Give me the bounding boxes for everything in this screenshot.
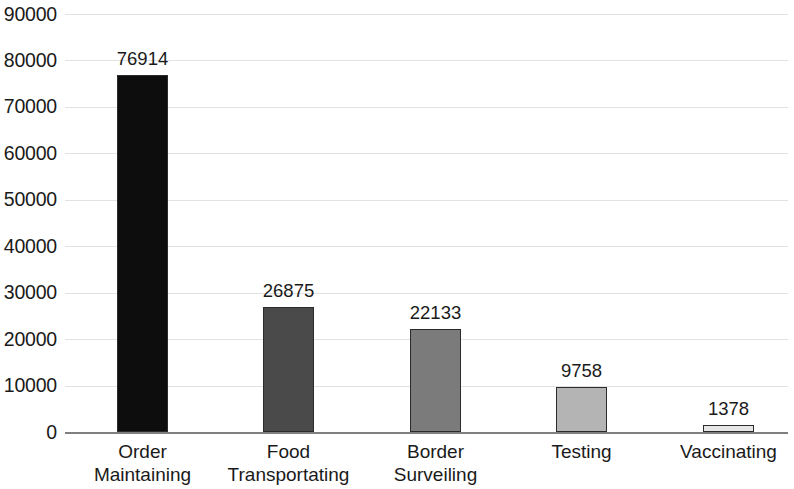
y-axis-tick-label: 20000 — [0, 330, 57, 350]
category-label-line2: Surveiling — [366, 463, 505, 486]
y-axis-tick-label: 40000 — [0, 237, 57, 257]
y-axis-tick-label: 60000 — [0, 144, 57, 164]
category-label-vaccinating: Vaccinating — [659, 440, 794, 463]
category-label-line2: Transportating — [219, 463, 358, 486]
y-axis-tick-label: 80000 — [0, 51, 57, 71]
category-label-line1: Testing — [512, 440, 651, 463]
category-label-line1: Border — [366, 440, 505, 463]
y-axis-tick-labels: 90000 80000 70000 60000 50000 40000 3000… — [0, 0, 57, 489]
y-axis-tick-label: 10000 — [0, 376, 57, 396]
y-axis-tick-label: 70000 — [0, 97, 57, 117]
y-axis-tick-label: 0 — [0, 423, 57, 443]
bar-value-label: 22133 — [385, 304, 486, 323]
bars-layer: 76914 Order Maintaining 26875 Food Trans… — [65, 0, 788, 489]
bar-value-label: 76914 — [92, 50, 193, 69]
bar-border-surveiling — [410, 329, 461, 432]
category-label-line1: Vaccinating — [659, 440, 794, 463]
category-label-line1: Order — [73, 440, 212, 463]
category-label-testing: Testing — [512, 440, 651, 463]
category-label-line2: Maintaining — [73, 463, 212, 486]
bar-chart: 90000 80000 70000 60000 50000 40000 3000… — [0, 0, 794, 489]
y-axis-tick-label: 50000 — [0, 190, 57, 210]
bar-order-maintaining — [117, 75, 168, 432]
bar-testing — [556, 387, 607, 432]
category-label-food-transportating: Food Transportating — [219, 440, 358, 486]
category-label-line1: Food — [219, 440, 358, 463]
bar-value-label: 1378 — [678, 400, 779, 419]
y-axis-tick-label: 30000 — [0, 283, 57, 303]
bar-value-label: 9758 — [531, 362, 632, 381]
bar-value-label: 26875 — [238, 282, 339, 301]
bar-food-transportating — [263, 307, 314, 432]
category-label-order-maintaining: Order Maintaining — [73, 440, 212, 486]
y-axis-tick-label: 90000 — [0, 5, 57, 25]
bar-vaccinating — [703, 425, 754, 432]
category-label-border-surveiling: Border Surveiling — [366, 440, 505, 486]
